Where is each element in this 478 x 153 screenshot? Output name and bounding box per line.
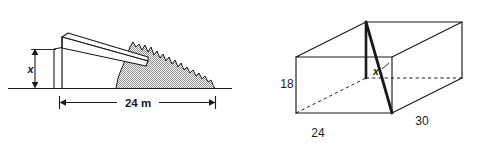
height-label-x: x [26, 63, 34, 75]
hatched-material-pile [116, 42, 215, 89]
figure-canvas: x 24 m [0, 0, 478, 153]
box-space-diagonal [366, 22, 392, 113]
height-dimension-arrow [31, 49, 56, 89]
figures-svg: x 24 m [0, 0, 478, 153]
box-diagonal-label-x: x [372, 65, 380, 77]
box-height-label: 18 [280, 77, 294, 91]
rectangular-box-diagram: 18 24 30 x [280, 22, 462, 140]
box-length-label: 30 [415, 114, 429, 128]
box-width-label: 24 [311, 126, 325, 140]
support-post-top-edge [54, 48, 62, 50]
diagonal-intersection-tick [382, 63, 389, 69]
conveyor-stockpile-diagram: x 24 m [8, 33, 232, 110]
base-label-24m: 24 m [125, 97, 151, 109]
